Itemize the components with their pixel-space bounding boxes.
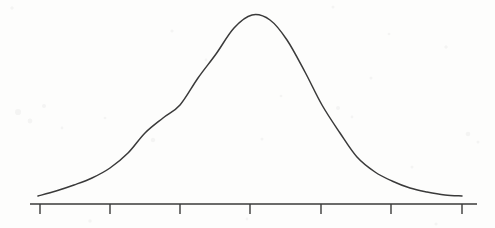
chart-canvas bbox=[0, 0, 495, 228]
bell-curve-path bbox=[38, 15, 462, 196]
bell-curve-figure bbox=[0, 0, 495, 228]
x-axis-ticks bbox=[40, 204, 462, 214]
